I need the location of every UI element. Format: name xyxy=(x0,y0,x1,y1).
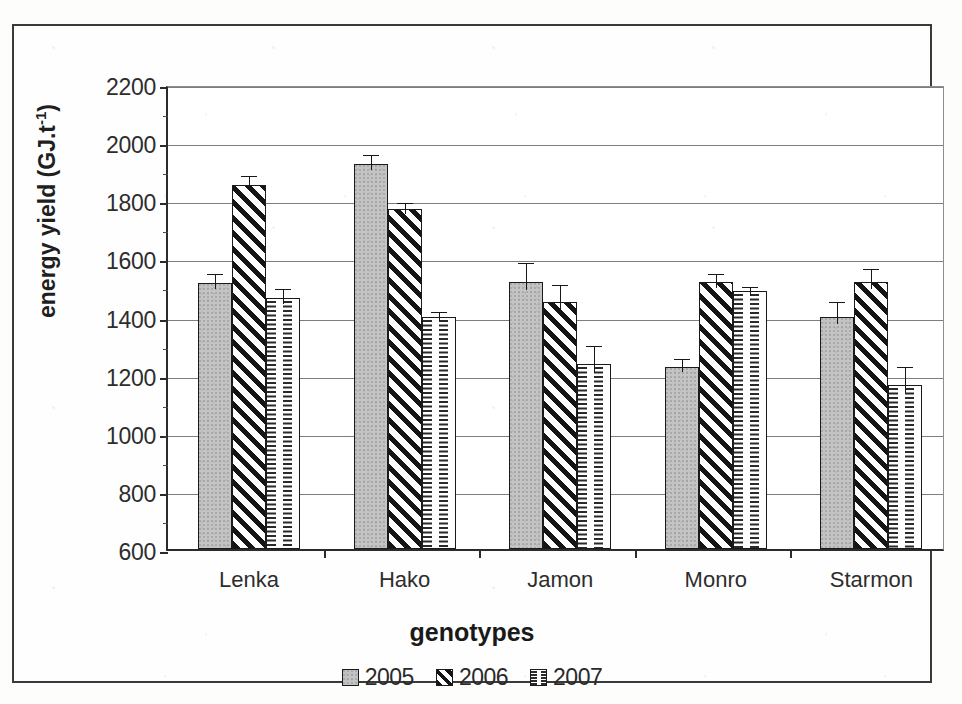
x-axis-title: genotypes xyxy=(14,618,930,647)
x-axis-separator-tick xyxy=(790,549,792,558)
legend-item-2006[interactable]: 2006 xyxy=(436,664,508,691)
bar-group xyxy=(790,87,946,549)
bar-starmon-2007[interactable] xyxy=(888,385,922,549)
y-axis-tick-label: 1600 xyxy=(106,248,156,275)
error-bar-cap-jamon-2005 xyxy=(518,263,534,264)
y-axis-tick-label: 1000 xyxy=(106,422,156,449)
error-bar-cap-hako-2005 xyxy=(363,155,379,156)
y-axis-tick xyxy=(160,320,168,322)
y-axis-tick-label: 2200 xyxy=(106,74,156,101)
error-bar-monro-2007 xyxy=(750,287,751,296)
error-bar-cap-jamon-2006 xyxy=(552,285,568,286)
x-axis-label-monro: Monro xyxy=(685,567,747,593)
error-bar-hako-2007 xyxy=(439,312,440,321)
legend-swatch-2007 xyxy=(530,669,547,686)
error-bar-cap-monro-2006 xyxy=(708,274,724,275)
x-axis-separator-tick xyxy=(479,549,481,558)
error-bar-monro-2006 xyxy=(716,274,717,289)
bar-hako-2005[interactable] xyxy=(354,164,388,549)
x-axis-label-hako: Hako xyxy=(379,567,430,593)
y-axis-tick-label: 1200 xyxy=(106,364,156,391)
bar-monro-2005[interactable] xyxy=(665,367,699,550)
error-bar-cap-hako-2007 xyxy=(431,312,447,313)
y-axis-tick-label: 1800 xyxy=(106,190,156,217)
x-axis-label-starmon: Starmon xyxy=(830,567,913,593)
x-axis-label-lenka: Lenka xyxy=(219,567,279,593)
bar-monro-2007[interactable] xyxy=(733,291,767,549)
error-bar-starmon-2006 xyxy=(871,269,872,289)
bar-group xyxy=(635,87,791,549)
error-bar-monro-2005 xyxy=(682,359,683,372)
error-bar-cap-lenka-2005 xyxy=(207,274,223,275)
error-bar-cap-lenka-2007 xyxy=(275,289,291,290)
error-bar-cap-monro-2005 xyxy=(674,359,690,360)
x-axis-label-jamon: Jamon xyxy=(527,567,593,593)
bar-hako-2006[interactable] xyxy=(388,209,422,549)
error-bar-cap-lenka-2006 xyxy=(241,176,257,177)
legend-label-2005: 2005 xyxy=(365,664,414,691)
legend-item-2007[interactable]: 2007 xyxy=(530,664,602,691)
error-bar-cap-hako-2006 xyxy=(397,203,413,204)
y-axis-tick xyxy=(160,378,168,380)
plot-area: 2200200018001600140012001000800600 Lenka… xyxy=(166,86,944,551)
error-bar-lenka-2005 xyxy=(215,274,216,289)
y-axis-title-suffix: ) xyxy=(34,104,60,112)
error-bar-hako-2005 xyxy=(371,155,372,170)
bar-group xyxy=(168,87,324,549)
y-axis-title-exponent: -1 xyxy=(32,112,49,125)
error-bar-lenka-2006 xyxy=(249,176,250,191)
bar-jamon-2007[interactable] xyxy=(577,364,611,549)
y-axis-tick-label: 800 xyxy=(119,480,156,507)
error-bar-jamon-2007 xyxy=(594,346,595,373)
legend-item-2005[interactable]: 2005 xyxy=(342,664,414,691)
y-axis-tick xyxy=(160,436,168,438)
y-axis-tick-label: 600 xyxy=(119,539,156,566)
error-bar-cap-starmon-2007 xyxy=(897,367,913,368)
bar-lenka-2006[interactable] xyxy=(232,185,266,549)
chart-page: energy yield (GJ.t-1) 220020001800160014… xyxy=(0,0,962,704)
bar-lenka-2007[interactable] xyxy=(266,298,300,549)
legend-swatch-2005 xyxy=(342,669,359,686)
y-axis-tick xyxy=(160,552,168,554)
y-axis-tick xyxy=(160,87,168,89)
bar-monro-2006[interactable] xyxy=(699,282,733,549)
error-bar-lenka-2007 xyxy=(283,289,284,304)
error-bar-cap-starmon-2006 xyxy=(863,269,879,270)
y-axis-tick-label: 1400 xyxy=(106,306,156,333)
legend-label-2007: 2007 xyxy=(553,664,602,691)
y-axis-tick xyxy=(160,494,168,496)
x-axis-separator-tick xyxy=(324,549,326,558)
y-axis-title-main: energy yield (GJ.t xyxy=(34,125,60,318)
y-axis-tick xyxy=(160,203,168,205)
y-axis-tick xyxy=(160,145,168,147)
bar-jamon-2006[interactable] xyxy=(543,302,577,549)
x-axis-separator-tick xyxy=(635,549,637,558)
bar-group xyxy=(479,87,635,549)
y-axis-tick xyxy=(160,261,168,263)
bar-group xyxy=(324,87,480,549)
figure-frame: energy yield (GJ.t-1) 220020001800160014… xyxy=(12,24,932,683)
bar-starmon-2005[interactable] xyxy=(820,317,854,550)
bar-starmon-2006[interactable] xyxy=(854,282,888,549)
error-bar-cap-jamon-2007 xyxy=(586,346,602,347)
bar-lenka-2005[interactable] xyxy=(198,283,232,549)
y-axis-title: energy yield (GJ.t-1) xyxy=(32,104,61,318)
error-bar-cap-monro-2007 xyxy=(742,287,758,288)
chart-legend: 200520062007 xyxy=(14,664,930,691)
bar-hako-2007[interactable] xyxy=(422,317,456,550)
error-bar-jamon-2005 xyxy=(526,263,527,290)
error-bar-starmon-2007 xyxy=(905,367,906,392)
y-axis-tick-label: 2000 xyxy=(106,132,156,159)
error-bar-cap-starmon-2005 xyxy=(829,302,845,303)
error-bar-jamon-2006 xyxy=(560,285,561,310)
legend-swatch-2006 xyxy=(436,669,453,686)
bar-jamon-2005[interactable] xyxy=(509,282,543,549)
error-bar-starmon-2005 xyxy=(837,302,838,324)
legend-label-2006: 2006 xyxy=(459,664,508,691)
error-bar-hako-2006 xyxy=(405,203,406,214)
